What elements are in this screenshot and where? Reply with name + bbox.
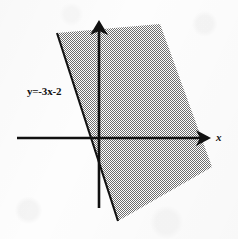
line-equation-label: y=-3x-2	[27, 85, 61, 97]
graph-figure: y=-3x-2 x	[0, 0, 238, 239]
x-axis-label: x	[216, 131, 221, 143]
shaded-region	[57, 24, 212, 221]
plot-canvas	[0, 0, 238, 239]
